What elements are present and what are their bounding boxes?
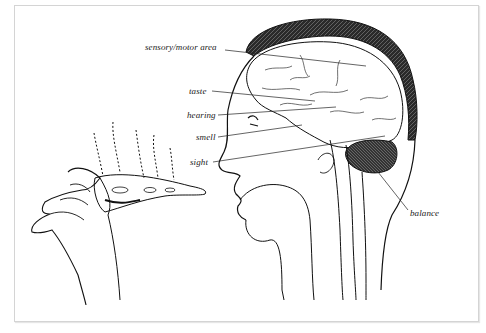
label-balance: balance (410, 208, 439, 218)
hand (32, 168, 100, 305)
label-sight: sight (190, 157, 208, 167)
brainstem (330, 140, 343, 300)
label-sensory-motor-area: sensory/motor area (145, 42, 217, 52)
pizza-slice (94, 175, 205, 212)
label-smell: smell (196, 132, 216, 142)
steam-lines (94, 122, 174, 180)
label-taste: taste (189, 86, 207, 96)
brain-cerebrum (247, 42, 403, 148)
sensory-head-illustration (0, 0, 486, 333)
label-hearing: hearing (187, 110, 216, 120)
cerebellum (346, 140, 397, 173)
throat-cavity (240, 185, 314, 300)
